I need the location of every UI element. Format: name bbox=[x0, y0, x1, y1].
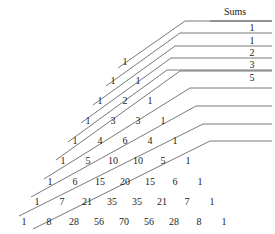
cell-r7-c0: 1 bbox=[25, 197, 49, 207]
cell-r6-c5: 6 bbox=[163, 177, 187, 187]
cell-r8-c7: 8 bbox=[187, 217, 211, 227]
cell-r6-c1: 6 bbox=[63, 177, 87, 187]
cell-r4-c2: 6 bbox=[113, 136, 137, 146]
cell-r1-c1: 1 bbox=[126, 76, 150, 86]
cell-r6-c0: 1 bbox=[38, 177, 62, 187]
sum-value-row-2: 2 bbox=[237, 48, 267, 58]
cell-r4-c4: 1 bbox=[163, 136, 187, 146]
cell-r8-c6: 28 bbox=[162, 217, 186, 227]
cell-r1-c0: 1 bbox=[101, 76, 125, 86]
cell-r6-c6: 1 bbox=[188, 177, 212, 187]
sum-value-row-0: 1 bbox=[237, 23, 267, 33]
sum-value-row-3: 3 bbox=[237, 60, 267, 70]
cell-r6-c3: 20 bbox=[113, 177, 137, 187]
pascal-triangle-figure: Sums 1 1 2 3 5 1 1 1 1 2 1 1 3 3 1 1 4 6… bbox=[0, 0, 275, 234]
cell-r2-c1: 2 bbox=[113, 96, 137, 106]
cell-r6-c4: 15 bbox=[138, 177, 162, 187]
cell-r7-c5: 21 bbox=[150, 197, 174, 207]
cell-r3-c0: 1 bbox=[76, 116, 100, 126]
cell-r7-c3: 35 bbox=[100, 197, 124, 207]
cell-r4-c0: 1 bbox=[63, 136, 87, 146]
cell-r7-c6: 7 bbox=[175, 197, 199, 207]
cell-r5-c1: 5 bbox=[76, 156, 100, 166]
sums-column-header: Sums bbox=[212, 7, 258, 17]
cell-r7-c1: 7 bbox=[50, 197, 74, 207]
cell-r5-c5: 1 bbox=[176, 156, 200, 166]
cell-r5-c0: 1 bbox=[51, 156, 75, 166]
cell-r7-c4: 35 bbox=[125, 197, 149, 207]
cell-r5-c3: 10 bbox=[126, 156, 150, 166]
cell-r4-c1: 4 bbox=[88, 136, 112, 146]
cell-r8-c4: 70 bbox=[112, 217, 136, 227]
cell-r7-c7: 1 bbox=[200, 197, 224, 207]
triangle-numbers-layer: Sums 1 1 2 3 5 1 1 1 1 2 1 1 3 3 1 1 4 6… bbox=[0, 0, 275, 234]
cell-r4-c3: 4 bbox=[138, 136, 162, 146]
cell-r0-c0: 1 bbox=[113, 57, 137, 67]
cell-r8-c1: 8 bbox=[37, 217, 61, 227]
sum-value-row-1: 1 bbox=[237, 36, 267, 46]
cell-r3-c3: 1 bbox=[151, 116, 175, 126]
cell-r5-c2: 10 bbox=[101, 156, 125, 166]
cell-r8-c8: 1 bbox=[212, 217, 236, 227]
cell-r6-c2: 15 bbox=[88, 177, 112, 187]
cell-r8-c2: 28 bbox=[62, 217, 86, 227]
cell-r5-c4: 5 bbox=[151, 156, 175, 166]
cell-r8-c3: 56 bbox=[87, 217, 111, 227]
cell-r8-c0: 1 bbox=[12, 217, 36, 227]
cell-r2-c0: 1 bbox=[88, 96, 112, 106]
cell-r7-c2: 21 bbox=[75, 197, 99, 207]
cell-r3-c1: 3 bbox=[101, 116, 125, 126]
sum-value-row-4: 5 bbox=[237, 73, 267, 83]
cell-r8-c5: 56 bbox=[137, 217, 161, 227]
cell-r3-c2: 3 bbox=[126, 116, 150, 126]
cell-r2-c2: 1 bbox=[138, 96, 162, 106]
